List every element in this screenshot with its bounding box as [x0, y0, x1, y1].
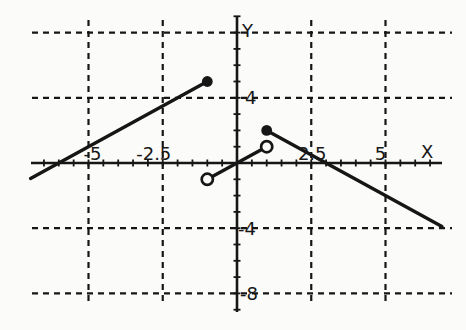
x-tick-label: -2.5	[136, 143, 171, 164]
graph-figure: -5-2.52.554-4-8 X Y	[0, 0, 466, 330]
y-tick-label: 4	[245, 87, 256, 108]
y-axis-title: Y	[241, 20, 254, 41]
x-axis-title: X	[421, 141, 433, 162]
x-tick-label: 5	[375, 143, 386, 164]
segment-right-branch	[267, 130, 442, 226]
open-point	[202, 174, 213, 185]
open-point	[261, 141, 272, 152]
y-tick-label: -4	[238, 218, 256, 239]
function-graph: -5-2.52.554-4-8 X Y	[0, 0, 466, 330]
closed-point	[202, 76, 213, 87]
y-tick-label: -8	[240, 283, 258, 304]
closed-point	[261, 125, 272, 136]
